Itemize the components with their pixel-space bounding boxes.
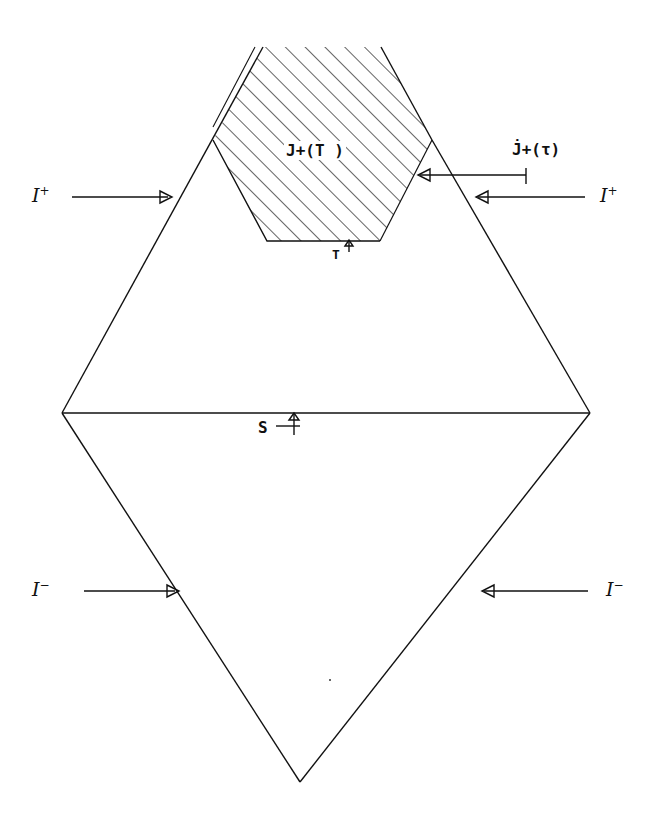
surface-t-label: T (332, 247, 340, 262)
region-label: J+(T ) (284, 141, 346, 160)
scri-plus-left-edge (62, 47, 263, 413)
scri-plus-left-label: I+ (32, 184, 50, 206)
surface-s-label: S (258, 418, 268, 437)
scri-plus-right-label: I+ (600, 184, 618, 206)
scri-minus-right-edge (300, 413, 590, 782)
scri-minus-right-label: I− (606, 578, 624, 600)
penrose-diagram: I+ I+ I− I− J+(T ) J̇+(τ) T S (0, 0, 665, 829)
diagram-lines (0, 0, 665, 829)
scri-minus-left-label: I− (32, 578, 50, 600)
scri-plus-right-edge (432, 140, 590, 413)
boundary-label: J̇+(τ) (512, 140, 560, 159)
scri-minus-left-edge (62, 413, 300, 782)
